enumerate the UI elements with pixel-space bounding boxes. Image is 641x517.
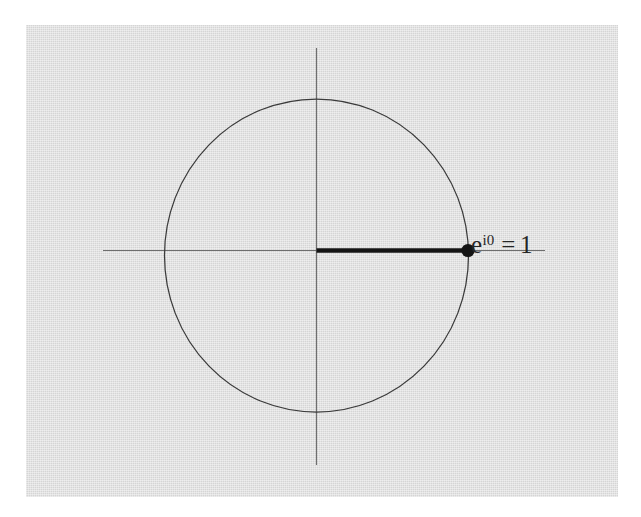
figure-page: —— ei0=1	[0, 0, 641, 517]
euler-identity-label: ei0=1	[471, 228, 533, 257]
label-value: 1	[520, 231, 533, 258]
unit-circle-diagram	[0, 0, 641, 517]
label-base: e	[471, 231, 483, 258]
label-exponent: i0	[483, 232, 495, 248]
label-equals-sign: =	[501, 231, 516, 258]
